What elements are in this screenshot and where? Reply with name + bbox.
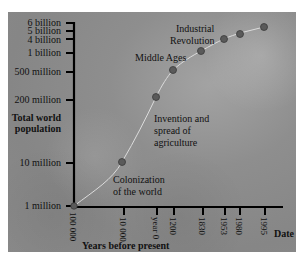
data-point xyxy=(221,36,228,43)
data-point xyxy=(119,159,126,166)
annotation-industrial: Industrial xyxy=(176,23,215,34)
annotation-industrial: Revolution xyxy=(170,35,214,46)
y-tick-label: 4 billion xyxy=(27,34,61,45)
x-tick-label: 1830 xyxy=(197,217,207,236)
population-chart: 6 billion 5 billion 4 billion 1 billion … xyxy=(0,0,301,264)
x-tick-label: year 0 xyxy=(151,217,161,240)
x-tick-label: 10 000 xyxy=(118,217,128,242)
y-tick-label: 1 million xyxy=(25,200,61,211)
y-tick-label: 10 million xyxy=(20,157,61,168)
y-ticks xyxy=(66,23,74,206)
data-point xyxy=(170,67,177,74)
y-tick-label: 500 million xyxy=(15,66,61,77)
x-tick-label: 1200 xyxy=(168,217,178,236)
date-label: Date xyxy=(274,228,295,239)
data-point xyxy=(153,94,160,101)
y-axis-title: population xyxy=(15,123,62,134)
x-tick-label: 1995 xyxy=(259,217,269,236)
data-point xyxy=(71,203,77,209)
y-axis-title: Total world xyxy=(12,112,62,123)
annotation-agriculture: Invention and xyxy=(154,113,209,124)
x-tick-label: 1980 xyxy=(234,217,244,236)
annotation-agriculture: agriculture xyxy=(154,137,198,148)
x-tick-label: 1953 xyxy=(219,217,229,236)
x-axis-title: Years before present xyxy=(82,240,170,251)
x-ticks xyxy=(124,207,265,215)
annotation-colonization: Colonization xyxy=(113,174,165,185)
annotation-middle-ages: Middle Ages xyxy=(135,52,186,63)
y-tick-label: 1 billion xyxy=(27,47,61,58)
annotation-colonization: of the world xyxy=(113,186,162,197)
data-point xyxy=(237,31,244,38)
x-tick-label: 100 000 xyxy=(68,212,78,242)
data-point xyxy=(261,24,268,31)
y-tick-label: 200 million xyxy=(15,94,61,105)
annotation-agriculture: spread of xyxy=(154,125,192,136)
data-point xyxy=(198,48,205,55)
